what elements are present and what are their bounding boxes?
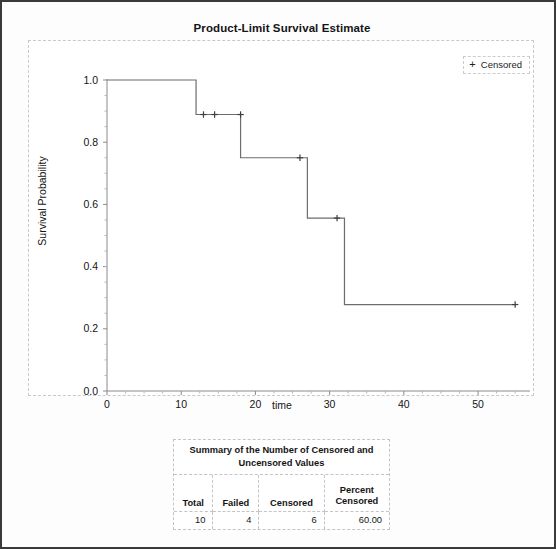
cell-failed: 4 (213, 512, 259, 530)
cell-percent-censored: 60.00 (324, 512, 389, 530)
percent-header-line1: Percent (330, 485, 384, 497)
censoring-summary-table: Total Failed Censored Percent Censored 1… (174, 475, 389, 529)
svg-text:0.8: 0.8 (83, 136, 98, 148)
svg-text:0.6: 0.6 (83, 198, 98, 210)
svg-text:0.2: 0.2 (83, 322, 98, 334)
column-header-percent-censored: Percent Censored (324, 475, 389, 512)
svg-text:1.0: 1.0 (83, 74, 98, 86)
x-axis-title: time (28, 399, 536, 411)
column-header-censored: Censored (259, 475, 324, 512)
column-header-total: Total (174, 475, 213, 512)
y-axis-title: Survival Probability (36, 101, 48, 301)
screenshot-page: Product-Limit Survival Estimate + Censor… (0, 0, 556, 549)
svg-text:0.4: 0.4 (83, 260, 98, 272)
svg-text:0.0: 0.0 (83, 385, 98, 397)
column-header-failed: Failed (213, 475, 259, 512)
summary-table-caption: Summary of the Number of Censored and Un… (174, 440, 389, 475)
survival-chart-panel: Product-Limit Survival Estimate + Censor… (28, 20, 536, 418)
percent-header-line2: Censored (330, 496, 384, 508)
table-row: 10 4 6 60.00 (174, 512, 389, 530)
table-header-row: Total Failed Censored Percent Censored (174, 475, 389, 512)
cell-censored: 6 (259, 512, 324, 530)
summary-table: Summary of the Number of Censored and Un… (173, 439, 390, 530)
cell-total: 10 (174, 512, 213, 530)
chart-svg: 0.00.20.40.60.81.001020304050 (28, 20, 536, 418)
